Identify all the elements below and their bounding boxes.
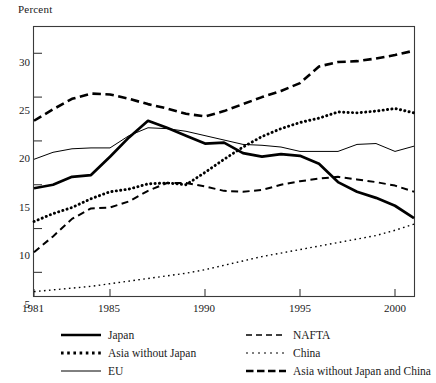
legend-item-eu: EU (60, 362, 245, 380)
legend-swatch-nafta (245, 329, 287, 341)
y-tick-label-20: 20 (8, 152, 30, 164)
legend-label-asia-without-japan: Asia without Japan (108, 347, 196, 359)
legend-column-right: NAFTA China Asia without Japan and China (245, 326, 436, 380)
legend-label-eu: EU (108, 365, 123, 377)
x-tick-label-1985: 1985 (87, 302, 131, 314)
series-line-asia-without-japan (34, 108, 414, 221)
legend-item-asia-without-japan-and-china: Asia without Japan and China (245, 362, 436, 380)
legend-label-nafta: NAFTA (293, 329, 330, 341)
x-tick-label-2000: 2000 (373, 302, 417, 314)
series-line-asia-without-japan-and-china (34, 51, 414, 121)
data-series (34, 51, 414, 292)
y-tick-label-25: 25 (8, 104, 30, 116)
series-line-china (34, 224, 414, 291)
legend-swatch-china (245, 347, 287, 359)
legend-item-japan: Japan (60, 326, 245, 344)
legend-item-asia-without-japan: Asia without Japan (60, 344, 245, 362)
y-axis-title: Percent (18, 3, 52, 15)
legend-label-japan: Japan (108, 329, 134, 341)
legend-swatch-asia-without-japan-and-china (245, 365, 287, 377)
y-tick-label-10: 10 (8, 249, 30, 261)
legend-item-china: China (245, 344, 436, 362)
legend-swatch-eu (60, 365, 102, 377)
legend-label-china: China (293, 347, 320, 359)
legend-swatch-japan (60, 329, 102, 341)
y-tick-label-15: 15 (8, 201, 30, 213)
y-tick-label-30: 30 (8, 56, 30, 68)
chart-legend: Japan Asia without Japan EU NAFTA China (60, 326, 410, 382)
series-line-nafta (34, 177, 414, 252)
x-tick-label-1990: 1990 (182, 302, 226, 314)
legend-column-left: Japan Asia without Japan EU (60, 326, 245, 380)
series-line-japan (34, 121, 414, 218)
axes-frame (34, 27, 415, 297)
legend-item-nafta: NAFTA (245, 326, 436, 344)
legend-swatch-asia-without-japan (60, 347, 102, 359)
legend-label-asia-without-japan-and-china: Asia without Japan and China (293, 365, 431, 377)
x-tick-label-1981: 1981 (11, 302, 55, 314)
x-tick-label-1995: 1995 (278, 302, 322, 314)
